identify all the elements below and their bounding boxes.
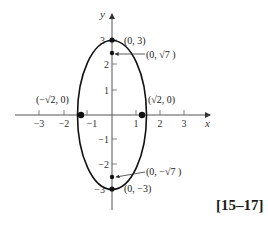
point-bottom-vertex: [109, 186, 114, 191]
y-tick-label: 2: [104, 59, 109, 70]
x-tick-label: 1: [134, 118, 139, 129]
y-tick-label: −2: [98, 159, 109, 170]
label-bottom-vertex: (0, −3): [124, 183, 151, 195]
label-bottom-focus: (0, −√7 ): [146, 166, 181, 178]
point-left-vertex: [78, 112, 84, 118]
x-tick-label: −2: [59, 118, 70, 129]
point-top-focus: [110, 51, 114, 55]
label-top-vertex: (0, 3): [124, 35, 146, 47]
label-left-vertex: (−√2, 0): [36, 94, 69, 106]
point-top-vertex: [109, 37, 114, 42]
y-tick-label: −1: [98, 134, 109, 145]
x-tick-label: 3: [182, 118, 187, 129]
y-tick-label: 1: [104, 85, 109, 96]
label-top-focus: (0, √7 ): [146, 49, 176, 61]
pointer-bottom-focus: [116, 172, 145, 177]
x-tick-label: −3: [34, 118, 45, 129]
x-tick-label: −1: [87, 118, 98, 129]
x-axis-label: x: [204, 117, 210, 129]
point-bottom-focus: [110, 175, 114, 179]
point-right-vertex: [139, 112, 145, 118]
y-axis-label: y: [99, 8, 105, 20]
x-tick-label: 2: [158, 118, 163, 129]
label-right-vertex: (√2, 0): [148, 94, 175, 106]
reference-number: [15–17]: [216, 197, 264, 214]
